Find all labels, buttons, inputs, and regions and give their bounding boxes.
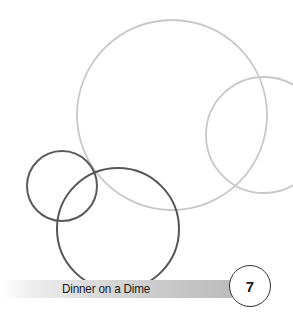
right-light-circle <box>206 77 293 193</box>
small-dark-circle <box>27 151 97 221</box>
medium-dark-circle <box>57 168 179 290</box>
page-number: 7 <box>246 278 254 295</box>
page-number-badge: 7 <box>229 265 271 307</box>
large-light-circle <box>77 20 267 210</box>
book-title: Dinner on a Dime <box>62 281 150 297</box>
book-page: Dinner on a Dime 7 <box>0 0 293 315</box>
